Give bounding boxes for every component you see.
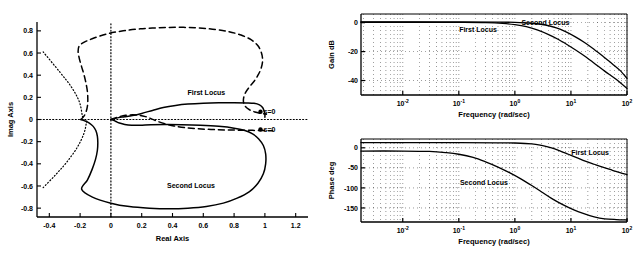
y-tick-label: -0.2 — [21, 138, 33, 145]
gain-bode-plot: 10-210-11001011020-20-40Frequency (rad/s… — [320, 0, 637, 128]
root-locus-panel: -0.4-0.200.20.40.60.811.20.80.60.40.20-0… — [0, 0, 320, 256]
locus-annotation: Second Locus — [167, 182, 215, 189]
y-tick-label: -20 — [348, 48, 358, 55]
y-tick-label: -0.6 — [21, 183, 33, 190]
y-tick-label: 0.8 — [23, 27, 33, 34]
root-locus-plot: -0.4-0.200.20.40.60.811.20.80.60.40.20-0… — [0, 0, 320, 256]
x-tick-label: 10-1 — [453, 98, 465, 107]
bode-annotation: First Locus — [459, 26, 497, 33]
x-axis-title: Frequency (rad/sec) — [458, 237, 530, 246]
x-axis-title: Real Axis — [156, 234, 190, 243]
locus-curve — [111, 103, 265, 120]
x-tick-label: 0.2 — [137, 222, 147, 229]
x-tick-label: 101 — [566, 225, 577, 234]
x-tick-label: 1.2 — [291, 222, 301, 229]
y-tick-label: -100 — [344, 185, 358, 192]
y-tick-label: 0.6 — [23, 50, 33, 57]
y-axis-title: Phase deg — [327, 161, 336, 199]
x-tick-label: 100 — [510, 225, 521, 234]
locus-annotation: s=0 — [264, 108, 276, 115]
x-tick-label: 0.6 — [198, 222, 208, 229]
y-tick-label: -50 — [348, 164, 358, 171]
figure-root: -0.4-0.200.20.40.60.811.20.80.60.40.20-0… — [0, 0, 637, 256]
x-tick-label: 10-2 — [397, 225, 409, 234]
bode-annotation: Second Locus — [460, 179, 508, 186]
y-tick-label: 0.4 — [23, 72, 33, 79]
bode-annotation: First Locus — [571, 149, 609, 156]
x-tick-label: 100 — [510, 98, 521, 107]
y-tick-label: 0 — [29, 116, 33, 123]
y-tick-label: -0.8 — [21, 205, 33, 212]
x-tick-label: -0.4 — [43, 222, 55, 229]
x-tick-label: 102 — [622, 98, 633, 107]
locus-curve — [43, 52, 83, 120]
y-tick-label: -150 — [344, 205, 358, 212]
y-tick-label: -40 — [348, 77, 358, 84]
x-tick-label: 0.4 — [168, 222, 178, 229]
phase-bode-plot: 10-210-11001011020-50-100-150Frequency (… — [320, 125, 637, 256]
y-tick-label: 0 — [354, 19, 358, 26]
locus-annotation: First Locus — [188, 89, 226, 96]
x-tick-label: 101 — [566, 98, 577, 107]
locus-annotation: s=0 — [264, 126, 276, 133]
locus-endpoint-marker — [258, 110, 262, 114]
bode-curve — [361, 143, 627, 175]
gain-bode-panel: 10-210-11001011020-20-40Frequency (rad/s… — [320, 0, 637, 128]
locus-endpoint-marker — [258, 127, 262, 131]
bode-annotation: Second Locus — [521, 19, 569, 26]
y-axis-title: Imag Axis — [6, 102, 15, 137]
locus-curve — [111, 115, 273, 131]
x-tick-label: -0.2 — [74, 222, 86, 229]
phase-bode-panel: 10-210-11001011020-50-100-150Frequency (… — [320, 125, 637, 256]
x-axis-title: Frequency (rad/sec) — [458, 110, 530, 119]
x-tick-label: 0 — [109, 222, 113, 229]
y-axis-title: Gain dB — [327, 40, 336, 69]
y-tick-label: -0.4 — [21, 160, 33, 167]
x-tick-label: 1 — [263, 222, 267, 229]
x-tick-label: 10-1 — [453, 225, 465, 234]
locus-curve — [81, 120, 266, 209]
x-tick-label: 0.8 — [229, 222, 239, 229]
y-tick-label: 0 — [354, 144, 358, 151]
x-tick-label: 102 — [622, 225, 633, 234]
x-tick-label: 10-2 — [397, 98, 409, 107]
locus-curve — [43, 120, 87, 188]
y-tick-label: 0.2 — [23, 94, 33, 101]
